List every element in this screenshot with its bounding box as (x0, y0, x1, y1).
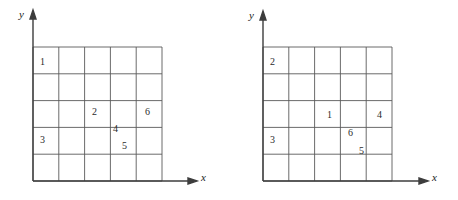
right-y-axis-arrow (260, 11, 266, 20)
figure-canvas: y x 1 2 6 3 4 5 (0, 0, 458, 200)
right-marker-4: 4 (377, 110, 382, 120)
right-marker-2: 2 (270, 57, 275, 67)
left-marker-3: 3 (40, 135, 45, 145)
left-marker-1: 1 (40, 57, 45, 67)
right-marker-6: 6 (348, 128, 353, 138)
left-marker-2: 2 (92, 107, 97, 117)
left-x-axis-label: x (201, 172, 206, 183)
left-panel: y x 1 2 6 3 4 5 (0, 0, 229, 200)
right-axes (260, 11, 428, 184)
left-panel-graphics (0, 0, 229, 200)
left-marker-5: 5 (122, 141, 127, 151)
left-axes (30, 10, 197, 184)
right-panel: y x 2 1 4 3 6 5 (229, 0, 458, 200)
right-marker-5: 5 (359, 146, 364, 156)
left-y-axis-arrow (30, 10, 36, 19)
left-y-axis-label: y (19, 9, 24, 20)
right-y-axis-label: y (249, 10, 254, 21)
right-x-axis-label: x (432, 172, 437, 183)
right-marker-3: 3 (270, 135, 275, 145)
left-marker-4: 4 (113, 124, 118, 134)
left-grid (33, 47, 162, 181)
right-panel-graphics (229, 0, 458, 200)
left-x-axis-arrow (188, 178, 197, 184)
right-marker-1: 1 (327, 110, 332, 120)
right-x-axis-arrow (419, 178, 428, 184)
left-marker-6: 6 (145, 107, 150, 117)
